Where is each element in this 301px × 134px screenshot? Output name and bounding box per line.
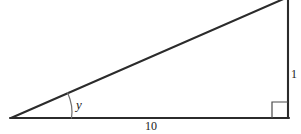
triangle-svg (0, 0, 301, 134)
angle-arc-icon (68, 93, 73, 119)
hypotenuse-line (11, 0, 288, 118)
base-side-length-label: 10 (145, 120, 157, 132)
vertical-side-length-label: 1 (291, 68, 297, 80)
triangle-figure: y 1 10 (0, 0, 301, 134)
right-angle-marker-icon (272, 102, 288, 118)
angle-label-y: y (76, 98, 82, 111)
